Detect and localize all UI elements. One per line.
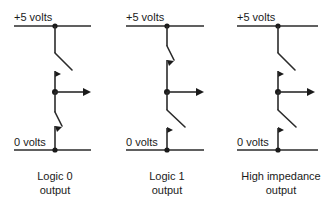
upper-switch-open[interactable] [55,53,72,77]
lower-switch-open[interactable] [167,110,185,133]
upper-switch-closed[interactable] [167,46,174,66]
caption-line-2: output [152,184,183,196]
output-arrow [55,88,91,96]
circuit-diagram-figure: +5 volts [0,0,331,206]
supply-rail-label: +5 volts [126,11,165,23]
diagram-canvas: +5 volts [0,0,331,206]
caption-line-2: output [40,184,71,196]
ground-junction-dot [164,147,169,152]
upper-switch-open[interactable] [278,53,295,77]
upper-switch-contact-arrow [278,71,284,77]
caption-line-2: output [266,184,297,196]
lower-switch-contact-arrow [278,127,284,133]
ground-rail-label: 0 volts [126,136,158,148]
lower-switch-contact-arrow [55,126,62,132]
ground-rail-label: 0 volts [14,136,46,148]
upper-switch-blade [278,53,295,70]
ground-junction-dot [275,147,280,152]
output-arrowhead [83,88,91,96]
caption-line-1: High impedance [241,170,321,182]
supply-rail-label: +5 volts [14,11,53,23]
supply-rail-label: +5 volts [237,11,276,23]
circuit-logic-1: +5 volts 0 volts [126,11,204,196]
upper-switch-blade [167,46,174,60]
upper-switch-contact-arrow [167,60,174,66]
lower-switch-contact-arrow [167,127,173,133]
lower-switch-open[interactable] [278,110,296,133]
output-arrowhead [196,88,204,96]
caption-line-1: Logic 0 [37,170,72,182]
caption-line-1: Logic 1 [149,170,184,182]
lower-switch-blade [55,112,62,126]
output-arrowhead [307,88,315,96]
lower-switch-blade [278,110,296,127]
lower-switch-blade [167,110,185,127]
upper-switch-contact-arrow [55,71,61,77]
upper-switch-blade [55,53,72,70]
ground-rail-label: 0 volts [237,136,269,148]
circuit-high-impedance: +5 volts 0 volts [237,11,321,196]
lower-switch-closed[interactable] [55,112,62,132]
output-arrow [167,88,204,96]
ground-junction-dot [52,147,57,152]
output-arrow [278,88,315,96]
circuit-logic-0: +5 volts [14,11,91,196]
